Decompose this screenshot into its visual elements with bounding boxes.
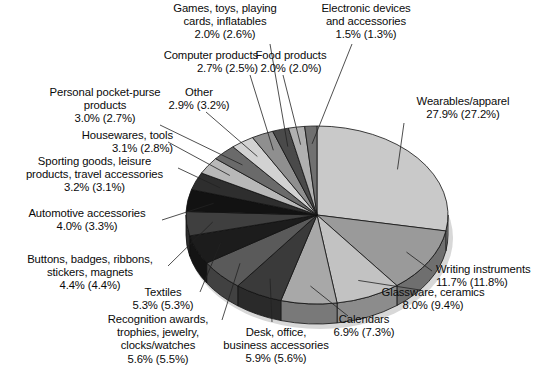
label-recognition-awards: Recognition awards,trophies, jewelry,clo… [93, 313, 223, 366]
label-line: stickers, magnets [10, 266, 170, 279]
label-line: 3.2% (3.1%) [7, 181, 182, 194]
label-line: Personal pocket-purse [35, 86, 175, 99]
label-line: 8.0% (9.4%) [366, 299, 500, 312]
label-line: 5.6% (5.5%) [93, 353, 223, 366]
label-food-products: Food products2.0% (2.0%) [243, 49, 339, 75]
label-line: Electronic devices [297, 2, 435, 15]
label-line: 2.7% (2.5%) [128, 62, 258, 75]
label-line: Food products [243, 49, 339, 62]
label-line: Recognition awards, [93, 313, 223, 326]
label-line: and accessories [297, 15, 435, 28]
label-line: 5.3% (5.3%) [122, 299, 204, 312]
label-other: Other2.9% (3.2%) [165, 86, 233, 112]
label-line: trophies, jewelry, [93, 326, 223, 339]
label-line: cards, inflatables [150, 15, 300, 28]
label-line: products [35, 99, 175, 112]
label-line: Calendars [315, 313, 413, 326]
label-line: 4.0% (3.3%) [8, 220, 166, 233]
label-line: 11.7% (11.8%) [436, 276, 555, 289]
label-line: Writing instruments [436, 263, 555, 276]
pie-top-face [186, 126, 448, 304]
label-computer-products: Computer products2.7% (2.5%) [128, 49, 258, 75]
label-line: business accessories [215, 339, 337, 352]
pie-slice [317, 126, 448, 231]
label-line: products, travel accessories [7, 168, 182, 181]
label-line: clocks/watches [93, 339, 223, 352]
label-sporting-goods: Sporting goods, leisureproducts, travel … [7, 155, 182, 195]
label-wearables-apparel: Wearables/apparel27.9% (27.2%) [388, 95, 538, 121]
label-line: 6.9% (7.3%) [315, 326, 413, 339]
label-line: 2.0% (2.0%) [243, 62, 339, 75]
label-line: Other [165, 86, 233, 99]
label-housewares-tools: Housewares, tools3.1% (2.8%) [48, 129, 173, 155]
label-electronic-devices: Electronic devicesand accessories1.5% (1… [297, 2, 435, 42]
label-line: 3.1% (2.8%) [48, 142, 173, 155]
label-line: Automotive accessories [8, 207, 166, 220]
label-line: 3.0% (2.7%) [35, 112, 175, 125]
label-glassware-ceramics: Glassware, ceramics8.0% (9.4%) [366, 286, 500, 312]
label-line: Wearables/apparel [388, 95, 538, 108]
label-calendars: Calendars6.9% (7.3%) [315, 313, 413, 339]
label-line: 2.9% (3.2%) [165, 99, 233, 112]
label-textiles: Textiles5.3% (5.3%) [122, 286, 204, 312]
label-line: Games, toys, playing [150, 2, 300, 15]
label-line: Housewares, tools [48, 129, 173, 142]
label-personal-pocket-purse: Personal pocket-purseproducts3.0% (2.7%) [35, 86, 175, 126]
label-line: 27.9% (27.2%) [388, 108, 538, 121]
label-line: 1.5% (1.3%) [297, 28, 435, 41]
label-games-toys: Games, toys, playingcards, inflatables2.… [150, 2, 300, 42]
label-line: Computer products [128, 49, 258, 62]
label-line: Textiles [122, 286, 204, 299]
label-line: Sporting goods, leisure [7, 155, 182, 168]
label-line: 5.9% (5.6%) [215, 352, 337, 365]
label-line: Buttons, badges, ribbons, [10, 253, 170, 266]
pie-chart: Games, toys, playingcards, inflatables2.… [0, 0, 555, 387]
label-automotive-accessories: Automotive accessories4.0% (3.3%) [8, 207, 166, 233]
label-writing-instruments: Writing instruments11.7% (11.8%) [436, 263, 555, 289]
label-line: 2.0% (2.6%) [150, 28, 300, 41]
